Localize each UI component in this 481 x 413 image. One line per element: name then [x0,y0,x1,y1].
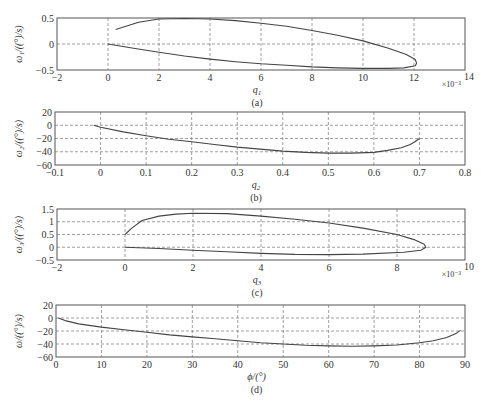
x-tick-labels: −202468101214 [52,71,474,83]
x-tick-label: 4 [208,72,213,83]
x-multiplier: ×10⁻³ [442,80,462,89]
y-tick-label: −0.5 [36,255,54,266]
x-tick-labels: −0.100.10.20.30.40.50.60.70.8 [46,167,471,178]
panel-caption: (b) [250,192,262,204]
y-tick-label: −20 [37,326,53,337]
x-tick-label: 60 [324,359,334,370]
y-tick-label: −20 [36,133,52,144]
y-tick-labels: −0.500.511.5 [36,204,54,266]
x-tick-label: 10 [96,359,106,370]
y-tick-label: 20 [42,107,52,118]
y-tick-label: 0 [49,242,54,253]
subplot-d: 0102030405060708090−60−40−20020ω/((°)/s)… [13,300,470,397]
x-tick-label: 0.2 [185,167,198,178]
y-tick-label: −40 [36,146,52,157]
x-tick-label: 10 [358,72,368,83]
x-tick-label: 30 [187,359,197,370]
x-tick-label: 10 [464,261,474,272]
y-axis-label: ω/((°)/s) [13,313,25,347]
y-tick-labels: −60−40−20020 [36,107,52,171]
x-tick-label: 6 [259,72,264,83]
y-tick-labels: −0.500.5 [36,13,54,76]
x-tick-label: 14 [464,71,474,82]
x-tick-label: 0.1 [140,167,153,178]
x-axis-label: q3 [253,274,262,287]
y-axis-label: ω₂/((°)/s) [13,119,25,157]
x-tick-label: 70 [369,359,379,370]
panel-caption: (d) [251,384,263,396]
y-tick-label: 1.5 [42,204,55,215]
subplot-c: −20246810−0.500.511.5×10⁻³ω₃/((°)/s)q3(c… [13,204,474,300]
panel-caption: (a) [251,97,262,109]
x-tick-labels: 0102030405060708090 [54,359,471,370]
y-tick-label: −40 [37,339,53,350]
data-curve [125,213,426,254]
x-tick-label: 0.4 [277,167,290,178]
data-curve [94,125,420,153]
grid [57,18,465,70]
y-tick-label: 0.5 [42,229,55,240]
x-axis-label: ϕ/(°) [247,371,266,383]
data-curve [108,19,417,69]
x-axis-label: q2 [252,179,261,192]
x-tick-labels: −20246810 [52,261,474,273]
x-tick-label: 0 [98,167,103,178]
x-tick-label: 2 [157,72,162,83]
x-tick-label: 0.8 [459,167,472,178]
grid [56,305,465,357]
y-tick-label: 0 [49,39,54,50]
y-tick-label: −60 [37,352,53,363]
y-tick-label: 0 [48,313,53,324]
figure: −202468101214−0.500.5×10⁻³ω₁/((°)/s)q1(a… [0,0,481,413]
x-tick-label: 0.7 [413,167,426,178]
panel-caption: (c) [251,287,262,299]
subplot-a: −202468101214−0.500.5×10⁻³ω₁/((°)/s)q1(a… [13,13,474,110]
y-tick-label: 0 [47,120,52,131]
x-tick-label: 40 [233,359,243,370]
y-tick-label: 1 [49,216,54,227]
y-axis-label: ω₃/((°)/s) [13,215,25,253]
x-multiplier: ×10⁻³ [442,270,462,279]
x-axis-label: q1 [253,84,262,97]
y-tick-label: 20 [43,300,53,311]
y-tick-label: −0.5 [36,65,54,76]
subplot-b: −0.100.10.20.30.40.50.60.70.8−60−40−2002… [13,107,471,205]
y-axis-label: ω₁/((°)/s) [13,25,25,63]
y-tick-label: 0.5 [42,13,55,24]
y-tick-label: −60 [36,160,52,171]
data-curve [58,318,460,346]
x-tick-label: 12 [409,72,419,83]
x-tick-label: 90 [460,359,470,370]
x-tick-label: 0.3 [231,167,244,178]
x-tick-label: 50 [278,359,288,370]
x-tick-label: 8 [310,72,315,83]
x-tick-label: 0 [123,262,128,273]
x-tick-label: 20 [142,359,152,370]
figure-canvas: −202468101214−0.500.5×10⁻³ω₁/((°)/s)q1(a… [0,0,481,413]
x-tick-label: 8 [395,262,400,273]
x-tick-label: 0 [106,72,111,83]
x-tick-label: 0.6 [368,167,381,178]
x-tick-label: 80 [415,359,425,370]
grid [55,112,465,165]
x-tick-label: 0 [54,359,59,370]
x-tick-label: 2 [191,262,196,273]
x-tick-label: 4 [259,262,264,273]
y-tick-labels: −60−40−20020 [37,300,53,363]
x-tick-label: 0.5 [322,167,335,178]
x-tick-label: 6 [327,262,332,273]
